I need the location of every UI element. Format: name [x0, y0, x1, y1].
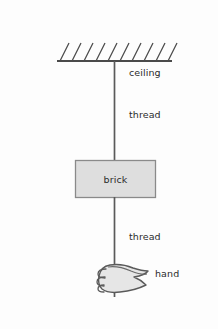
label-thread-lower: thread [129, 231, 161, 242]
physics-diagram: ceiling thread brick thread hand [0, 0, 218, 329]
label-hand: hand [155, 268, 179, 279]
hatch-mark [60, 43, 69, 61]
hatch-mark [144, 43, 153, 61]
label-brick: brick [75, 160, 156, 198]
hatch-mark [156, 43, 165, 61]
hatch-mark [72, 43, 81, 61]
hatch-mark [96, 43, 105, 61]
label-thread-upper: thread [129, 109, 161, 120]
hatch-mark [132, 43, 141, 61]
hatch-mark [84, 43, 93, 61]
hatch-mark [120, 43, 129, 61]
hatch-mark [108, 43, 117, 61]
ceiling-hatching-group [60, 43, 177, 61]
hand-icon [97, 265, 148, 293]
label-ceiling: ceiling [129, 67, 161, 78]
hatch-mark [168, 43, 177, 61]
